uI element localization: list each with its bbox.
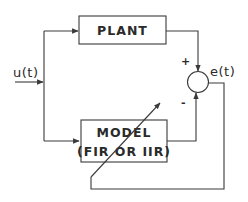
model-label-line1: MODEL	[97, 125, 152, 140]
plant-label: PLANT	[97, 23, 148, 38]
plus-sign: +	[181, 55, 190, 68]
plant-block: PLANT	[79, 16, 166, 44]
system-identification-diagram: u(t) PLANT MODEL (FIR OR IIR) + - e(t)	[0, 0, 248, 202]
input-signal-label: u(t)	[13, 65, 38, 80]
summing-junction	[188, 72, 209, 93]
error-signal-label: e(t)	[210, 64, 235, 79]
model-label-line2: (FIR OR IIR)	[77, 144, 171, 159]
minus-sign: -	[181, 96, 186, 109]
